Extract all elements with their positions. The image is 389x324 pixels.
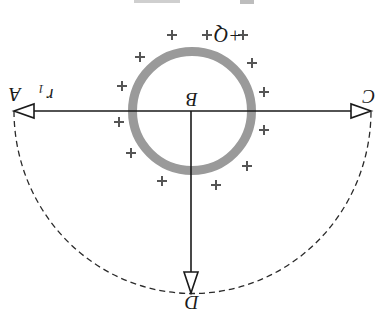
plus-charge-icon	[202, 30, 212, 40]
plus-charge-icon	[242, 161, 252, 171]
plus-charge-icon	[117, 81, 127, 91]
diagram-figure: +Q B A C D r 1	[0, 0, 389, 324]
plus-charge-icon	[135, 52, 145, 62]
arrowhead-a-icon	[14, 104, 34, 118]
label-center-b: B	[186, 89, 198, 110]
arrowhead-d-icon	[184, 272, 198, 293]
label-radius-r1: r 1	[38, 82, 54, 105]
radius-symbol: r	[46, 85, 54, 105]
plus-charge-icon	[126, 148, 136, 158]
plus-charge-icon	[167, 30, 177, 40]
radius-subscript: 1	[38, 82, 44, 96]
plus-charge-icon	[211, 180, 221, 190]
label-point-a: A	[9, 84, 23, 105]
plus-charge-icon	[259, 125, 269, 135]
plus-charge-icon	[247, 58, 257, 68]
plus-charge-icon	[157, 176, 167, 186]
cropped-caption-fragment	[134, 0, 254, 4]
label-shell-charge: +Q	[213, 24, 241, 46]
plus-charge-icon	[259, 87, 269, 97]
dashed-path-arc	[14, 111, 371, 294]
label-point-d: D	[185, 292, 200, 313]
plus-charge-icon	[114, 117, 124, 127]
label-point-c: C	[362, 86, 375, 107]
charged-shell-diagram: +Q B A C D r 1	[0, 0, 389, 324]
